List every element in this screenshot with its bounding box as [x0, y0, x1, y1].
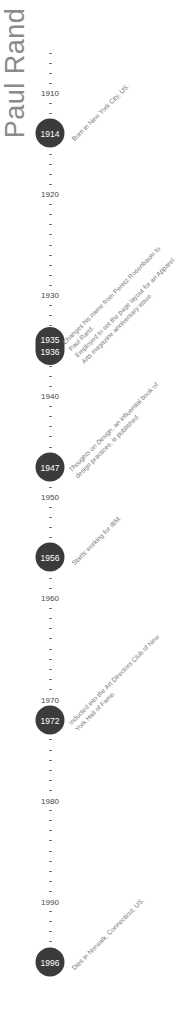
decade-label: 1980	[41, 797, 59, 806]
year-tick	[49, 830, 52, 831]
event-description: Thoughts on Design, an influential book …	[66, 380, 166, 480]
event-marker[interactable]: 1914	[36, 119, 65, 148]
event-description: Born in New York City, US.	[70, 82, 131, 143]
event-description-line: York Hall of Fame.	[73, 639, 167, 733]
timeline: 1910192019301940195019601970198019901914…	[0, 0, 182, 1021]
year-tick	[49, 184, 52, 185]
year-tick	[49, 840, 52, 841]
year-tick	[49, 113, 52, 114]
year-tick	[49, 174, 52, 175]
year-tick	[49, 386, 52, 387]
year-tick	[49, 760, 52, 761]
decade-label: 1910	[41, 89, 59, 98]
year-tick	[49, 406, 52, 407]
year-tick	[49, 578, 52, 579]
year-tick	[49, 861, 52, 862]
event-marker[interactable]: 1947	[36, 453, 65, 482]
event-year: 1914	[41, 127, 60, 139]
year-tick	[49, 204, 52, 205]
year-tick	[49, 447, 52, 448]
year-tick	[49, 53, 52, 54]
year-tick	[49, 366, 52, 367]
year-tick	[49, 931, 52, 932]
event-year: 1956	[41, 551, 60, 563]
year-tick	[49, 517, 52, 518]
decade-label: 1970	[41, 696, 59, 705]
event-description-line: Dies in Norwalk, Connecticut, US.	[70, 896, 146, 972]
year-tick	[49, 871, 52, 872]
event-description-line: Born in New York City, US.	[70, 82, 131, 143]
year-tick	[49, 679, 52, 680]
year-tick	[49, 73, 52, 74]
event-marker[interactable]: 1956	[36, 543, 65, 572]
event-year: 1972	[41, 714, 60, 726]
year-tick	[49, 608, 52, 609]
year-tick	[49, 154, 52, 155]
year-tick	[49, 255, 52, 256]
year-tick	[49, 275, 52, 276]
year-tick	[49, 810, 52, 811]
year-tick	[49, 426, 52, 427]
year-tick	[49, 739, 52, 740]
event-description: Starts working for IBM.	[70, 513, 124, 567]
year-tick	[49, 487, 52, 488]
event-description-line: design practices, is published.	[73, 387, 166, 480]
year-tick	[49, 851, 52, 852]
year-tick	[49, 628, 52, 629]
year-tick	[49, 245, 52, 246]
year-tick	[49, 689, 52, 690]
event-marker[interactable]: 1996	[36, 948, 65, 977]
event-description-line: Starts working for IBM.	[70, 513, 124, 567]
decade-label: 1990	[41, 898, 59, 907]
year-tick	[49, 649, 52, 650]
year-tick	[49, 537, 52, 538]
year-tick	[49, 820, 52, 821]
year-tick	[49, 588, 52, 589]
event-year: 1935	[41, 334, 60, 346]
year-tick	[49, 921, 52, 922]
event-description-line: Thoughts on Design, an influential book …	[66, 380, 159, 473]
decade-label: 1950	[41, 493, 59, 502]
year-tick	[49, 265, 52, 266]
decade-label: 1930	[41, 291, 59, 300]
decade-label: 1920	[41, 190, 59, 199]
year-tick	[49, 315, 52, 316]
year-tick	[49, 234, 52, 235]
year-tick	[49, 63, 52, 64]
year-tick	[49, 285, 52, 286]
year-tick	[49, 750, 52, 751]
year-tick	[49, 83, 52, 84]
year-tick	[49, 214, 52, 215]
event-description-line: Paul Rand.	[66, 250, 169, 353]
decade-label: 1960	[41, 594, 59, 603]
event-description: Changes his name from Peretz Rosenbaum t…	[60, 243, 182, 365]
year-tick	[49, 941, 52, 942]
year-tick	[49, 305, 52, 306]
event-year: 1996	[41, 956, 60, 968]
year-tick	[49, 770, 52, 771]
year-tick	[49, 790, 52, 791]
year-tick	[49, 224, 52, 225]
event-description-line: Inducted into the Art Directors Club of …	[66, 632, 160, 726]
event-description: Inducted into the Art Directors Club of …	[66, 632, 167, 733]
event-description-line: Employed to set the page layout for an A…	[73, 256, 176, 359]
event-marker[interactable]: 1972	[36, 706, 65, 735]
event-year: 1947	[41, 461, 60, 473]
year-tick	[49, 103, 52, 104]
year-tick	[49, 376, 52, 377]
event-marker[interactable]: 19351936	[36, 327, 65, 365]
decade-label: 1940	[41, 392, 59, 401]
year-tick	[49, 669, 52, 670]
year-tick	[49, 638, 52, 639]
year-tick	[49, 911, 52, 912]
year-tick	[49, 416, 52, 417]
year-tick	[49, 618, 52, 619]
year-tick	[49, 527, 52, 528]
year-tick	[49, 507, 52, 508]
year-tick	[49, 780, 52, 781]
year-tick	[49, 891, 52, 892]
year-tick	[49, 881, 52, 882]
event-year: 1936	[41, 346, 60, 358]
event-description: Dies in Norwalk, Connecticut, US.	[70, 896, 146, 972]
year-tick	[49, 659, 52, 660]
